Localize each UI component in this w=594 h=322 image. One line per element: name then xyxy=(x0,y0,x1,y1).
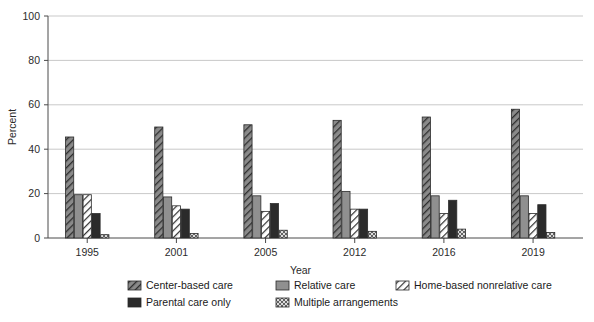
legend-swatch xyxy=(276,298,289,307)
bar xyxy=(520,196,528,238)
bar xyxy=(359,209,367,238)
bar xyxy=(172,206,180,238)
y-tick-label: 100 xyxy=(22,10,40,22)
x-tick-label: 2016 xyxy=(432,246,456,258)
bar xyxy=(66,137,74,238)
chart-canvas: 020406080100 199520012005201220162019 Ye… xyxy=(0,0,594,322)
legend-swatch xyxy=(276,281,289,290)
legend-label: Relative care xyxy=(294,279,355,291)
y-tick-label: 20 xyxy=(28,187,40,199)
gridlines xyxy=(48,16,583,194)
legend-swatch xyxy=(128,281,141,290)
bar xyxy=(440,214,448,238)
bar xyxy=(511,109,519,238)
bars xyxy=(66,109,555,238)
bar xyxy=(333,120,341,238)
legend-swatch xyxy=(396,281,409,290)
bar xyxy=(101,235,109,238)
y-tick-label: 40 xyxy=(28,143,40,155)
legend-label: Home-based nonrelative care xyxy=(414,279,552,291)
bar xyxy=(431,196,439,238)
bar xyxy=(368,231,376,238)
x-tick-label: 2019 xyxy=(521,246,545,258)
legend-label: Center-based care xyxy=(146,279,233,291)
bar xyxy=(181,209,189,238)
y-tick-label: 0 xyxy=(34,232,40,244)
bar xyxy=(83,195,91,238)
bar xyxy=(538,205,546,238)
y-tick-label: 80 xyxy=(28,54,40,66)
bar xyxy=(547,232,555,238)
bar-chart: 020406080100 199520012005201220162019 Ye… xyxy=(0,0,594,322)
x-axis: 199520012005201220162019 xyxy=(48,238,583,258)
bar xyxy=(529,214,537,238)
x-axis-title: Year xyxy=(290,264,312,276)
legend-item: Multiple arrangements xyxy=(276,296,398,308)
x-tick-label: 2012 xyxy=(343,246,367,258)
bar xyxy=(155,127,163,238)
bar xyxy=(92,214,100,238)
bar xyxy=(164,197,172,238)
x-tick-label: 1995 xyxy=(76,246,100,258)
y-axis: 020406080100 xyxy=(22,10,48,244)
y-axis-title: Percent xyxy=(6,109,18,145)
bar xyxy=(351,209,359,238)
legend-label: Parental care only xyxy=(146,296,231,308)
bar xyxy=(261,211,269,238)
bar xyxy=(449,200,457,238)
legend: Center-based careRelative careHome-based… xyxy=(128,279,552,308)
bar xyxy=(253,196,261,238)
bar xyxy=(190,234,198,238)
bar xyxy=(74,195,82,238)
x-tick-label: 2001 xyxy=(165,246,189,258)
x-tick-label: 2005 xyxy=(254,246,278,258)
legend-item: Home-based nonrelative care xyxy=(396,279,552,291)
bar xyxy=(422,117,430,238)
legend-label: Multiple arrangements xyxy=(294,296,398,308)
bar xyxy=(342,191,350,238)
bar xyxy=(279,230,287,238)
bar xyxy=(270,204,278,238)
legend-item: Relative care xyxy=(276,279,355,291)
y-tick-label: 60 xyxy=(28,98,40,110)
legend-swatch xyxy=(128,298,141,307)
bar xyxy=(244,125,252,238)
legend-item: Parental care only xyxy=(128,296,231,308)
bar xyxy=(457,229,465,238)
legend-item: Center-based care xyxy=(128,279,233,291)
